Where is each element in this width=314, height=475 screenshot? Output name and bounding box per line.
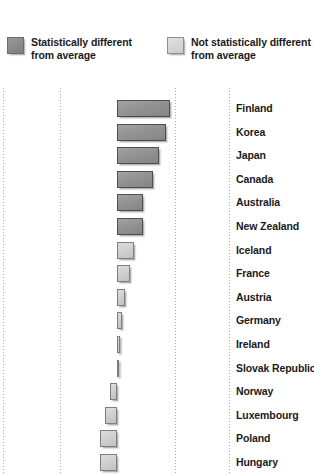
chart-row: Poland — [0, 427, 314, 451]
bar-ireland[interactable] — [117, 336, 120, 353]
bar-australia[interactable] — [117, 194, 143, 211]
chart-plot-area: FinlandKoreaJapanCanadaAustraliaNew Zeal… — [0, 88, 314, 475]
row-label-australia: Australia — [236, 191, 280, 215]
row-label-poland: Poland — [236, 427, 270, 451]
chart-legend: Statistically different from average Not… — [0, 34, 314, 74]
bar-norway[interactable] — [110, 383, 117, 400]
bar-france[interactable] — [117, 265, 130, 282]
bar-iceland[interactable] — [117, 242, 134, 259]
row-label-iceland: Iceland — [236, 239, 271, 263]
chart-row: Hungary — [0, 451, 314, 475]
bar-japan[interactable] — [117, 147, 159, 164]
bar-germany[interactable] — [117, 312, 122, 329]
row-label-slovak-republic: Slovak Republic — [236, 357, 314, 381]
bar-track — [0, 404, 229, 428]
row-label-korea: Korea — [236, 121, 265, 145]
bar-austria[interactable] — [117, 289, 125, 306]
bar-poland[interactable] — [100, 430, 117, 447]
chart-row: Norway — [0, 380, 314, 404]
row-label-finland: Finland — [236, 97, 273, 121]
bar-track — [0, 286, 229, 310]
bar-track — [0, 215, 229, 239]
bar-luxembourg[interactable] — [105, 407, 117, 424]
bar-track — [0, 380, 229, 404]
chart-row: Slovak Republic — [0, 357, 314, 381]
row-label-new-zealand: New Zealand — [236, 215, 299, 239]
row-label-luxembourg: Luxembourg — [236, 404, 299, 428]
chart-row: France — [0, 262, 314, 286]
chart-row: Ireland — [0, 333, 314, 357]
bar-hungary[interactable] — [100, 454, 117, 471]
chart-row: Austria — [0, 286, 314, 310]
bar-track — [0, 168, 229, 192]
bar-finland[interactable] — [117, 100, 170, 117]
bar-track — [0, 451, 229, 475]
bar-track — [0, 427, 229, 451]
row-label-norway: Norway — [236, 380, 273, 404]
bar-canada[interactable] — [117, 171, 153, 188]
bar-slovak-republic[interactable] — [117, 360, 119, 377]
bar-track — [0, 191, 229, 215]
chart-row: Korea — [0, 121, 314, 145]
chart-row: Luxembourg — [0, 404, 314, 428]
row-label-hungary: Hungary — [236, 451, 278, 475]
legend-item-not-statistically-different: Not statistically different from average — [167, 36, 311, 61]
bar-track — [0, 144, 229, 168]
bar-track — [0, 309, 229, 333]
chart-row: Finland — [0, 97, 314, 121]
chart-row: Australia — [0, 191, 314, 215]
chart-row: Iceland — [0, 239, 314, 263]
chart-row: Japan — [0, 144, 314, 168]
row-label-austria: Austria — [236, 286, 271, 310]
bar-track — [0, 97, 229, 121]
legend-item-statistically-different: Statistically different from average — [7, 36, 132, 61]
row-label-japan: Japan — [236, 144, 266, 168]
bar-track — [0, 333, 229, 357]
bar-korea[interactable] — [117, 124, 166, 141]
legend-item-label: Statistically different from average — [31, 36, 132, 61]
bar-track — [0, 239, 229, 263]
row-label-france: France — [236, 262, 270, 286]
chart-row: Germany — [0, 309, 314, 333]
row-label-canada: Canada — [236, 168, 273, 192]
row-label-germany: Germany — [236, 309, 281, 333]
bar-new-zealand[interactable] — [117, 218, 143, 235]
row-label-ireland: Ireland — [236, 333, 270, 357]
bar-track — [0, 262, 229, 286]
legend-swatch-icon — [7, 37, 24, 54]
bar-track — [0, 121, 229, 145]
bar-track — [0, 357, 229, 381]
chart-row: New Zealand — [0, 215, 314, 239]
legend-item-label: Not statistically different from average — [191, 36, 311, 61]
chart-row: Canada — [0, 168, 314, 192]
legend-swatch-icon — [167, 37, 184, 54]
